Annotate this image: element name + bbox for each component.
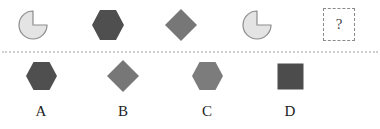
sequence-item-4-pie-icon [240, 8, 274, 42]
option-b-label[interactable]: B [113, 103, 133, 120]
option-d-square-icon[interactable] [277, 63, 304, 90]
sequence-item-1-pie-icon [16, 8, 50, 42]
dotted-divider [2, 51, 378, 53]
option-a-hexagon-icon[interactable] [25, 61, 58, 91]
option-b-diamond-icon[interactable] [106, 59, 140, 93]
option-d-label[interactable]: D [280, 103, 300, 120]
option-c-label[interactable]: C [197, 103, 217, 120]
sequence-item-3-diamond-icon [164, 8, 198, 42]
option-a-label[interactable]: A [31, 103, 51, 120]
sequence-item-2-hexagon-icon [91, 9, 125, 41]
question-mark: ? [336, 16, 343, 33]
option-c-hexagon-icon[interactable] [191, 61, 224, 91]
answer-placeholder-box: ? [323, 8, 355, 41]
